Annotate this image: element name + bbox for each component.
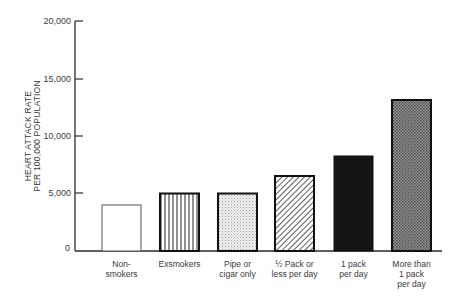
bar-pipe-or-cigar xyxy=(218,194,257,252)
bar-one-pack xyxy=(334,156,373,251)
bar-exsmokers xyxy=(160,194,199,252)
y-tick-label-10000: 10,000 xyxy=(43,131,71,141)
y-ticks: 20,000 15,000 10,000 5,000 0 xyxy=(43,16,83,253)
category-label-pipe-1: Pipe or xyxy=(224,259,251,269)
y-tick-label-0: 0 xyxy=(65,243,70,253)
category-label-one-pack-1: 1 pack xyxy=(341,259,367,269)
y-tick-label-15000: 15,000 xyxy=(43,74,71,84)
category-label-non-smokers-2: smokers xyxy=(105,269,137,279)
y-tick-label-20000: 20,000 xyxy=(43,16,71,26)
category-label-more-than-2: 1 pack xyxy=(399,269,425,279)
category-label-exsmokers: Exsmokers xyxy=(158,259,200,269)
category-label-more-than-3: per day xyxy=(397,279,426,289)
y-tick-label-5000: 5,000 xyxy=(48,188,71,198)
y-axis-label-line-2: PER 100,000 POPULATION xyxy=(32,80,42,191)
x-category-labels: Non- smokers Exsmokers Pipe or cigar onl… xyxy=(105,259,430,289)
bar-chart: HEART ATTACK RATE PER 100,000 POPULATION… xyxy=(0,0,463,299)
bar-more-than-one-pack xyxy=(392,100,431,251)
bars xyxy=(102,100,431,251)
category-label-one-pack-2: per day xyxy=(339,269,368,279)
bar-half-pack-or-less xyxy=(275,176,314,251)
category-label-pipe-2: cigar only xyxy=(219,269,256,279)
category-label-more-than-1: More than xyxy=(392,259,431,269)
category-label-non-smokers-1: Non- xyxy=(112,259,131,269)
category-label-half-pack-2: less per day xyxy=(272,269,319,279)
y-axis-label: HEART ATTACK RATE PER 100,000 POPULATION xyxy=(23,80,42,191)
category-label-half-pack-1: ½ Pack or xyxy=(275,259,313,269)
bar-non-smokers xyxy=(102,205,141,251)
